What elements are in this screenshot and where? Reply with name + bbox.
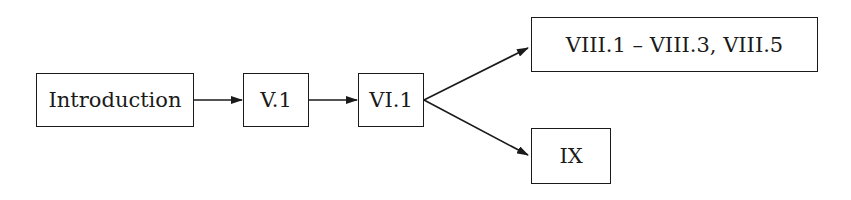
node-ix: IX (531, 128, 611, 184)
node-label: IX (559, 144, 582, 168)
edge-vi1-viii (424, 48, 528, 100)
node-label: VIII.1 – VIII.3, VIII.5 (566, 33, 783, 57)
node-label: V.1 (260, 88, 292, 112)
node-label: Introduction (49, 88, 182, 112)
edge-vi1-ix (424, 100, 528, 155)
node-v1: V.1 (243, 73, 309, 127)
node-viii: VIII.1 – VIII.3, VIII.5 (531, 17, 818, 72)
node-label: VI.1 (369, 88, 413, 112)
node-introduction: Introduction (36, 73, 194, 127)
node-vi1: VI.1 (358, 73, 424, 127)
